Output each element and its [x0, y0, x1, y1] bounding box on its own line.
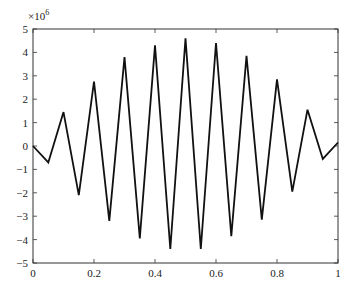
- axes: [33, 29, 338, 263]
- tick-label: 3: [23, 70, 29, 82]
- tick-label: 0: [30, 267, 36, 279]
- tick-label: 0.8: [270, 267, 284, 279]
- tick-label: 1: [335, 267, 341, 279]
- y-multiplier-label: ×106: [28, 8, 49, 22]
- tick-label: 5: [23, 23, 29, 35]
- tick-label: 4: [23, 46, 29, 58]
- tick-label: −4: [16, 234, 28, 246]
- tick-label: 0.6: [209, 267, 223, 279]
- ticks: 00.20.40.60.81−5−4−3−2−1012345: [16, 23, 340, 279]
- tick-label: −5: [16, 257, 28, 269]
- tick-label: 0.4: [148, 267, 162, 279]
- tick-label: 0.2: [87, 267, 101, 279]
- data-line: [33, 38, 338, 249]
- tick-label: −2: [16, 187, 28, 199]
- line-chart: 00.20.40.60.81−5−4−3−2−1012345 ×106: [0, 0, 351, 288]
- tick-label: 1: [23, 117, 29, 129]
- tick-label: 0: [23, 140, 29, 152]
- tick-label: −1: [16, 163, 28, 175]
- tick-label: 2: [23, 93, 29, 105]
- tick-label: −3: [16, 210, 28, 222]
